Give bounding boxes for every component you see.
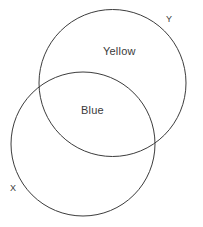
set-label-y: Y — [166, 15, 172, 24]
circle-set-y — [39, 10, 186, 157]
set-label-x: X — [10, 184, 16, 193]
circle-set-x — [11, 72, 155, 216]
region-label-blue: Blue — [81, 105, 104, 116]
region-label-yellow: Yellow — [103, 46, 136, 57]
venn-diagram: Yellow Blue Y X — [0, 0, 203, 227]
